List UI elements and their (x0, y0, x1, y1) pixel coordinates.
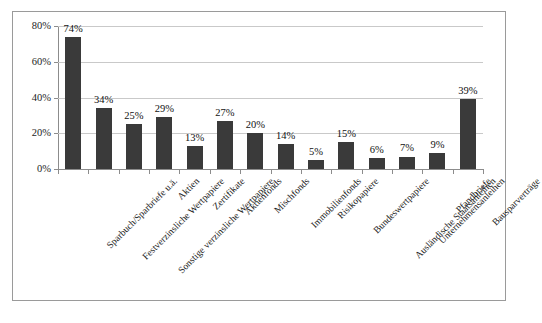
plot-area: 0%20%40%60%80% 74%34%25%29%13%27%20%14%5… (58, 26, 483, 169)
gridline (58, 98, 483, 99)
bar (460, 99, 476, 169)
y-tick-mark (54, 62, 58, 63)
bar (247, 133, 263, 169)
x-tick-mark (422, 169, 423, 174)
bar-value-label: 6% (370, 145, 384, 156)
bar (278, 144, 294, 169)
x-tick-mark (483, 169, 484, 174)
bar-value-label: 5% (309, 147, 323, 158)
bar-value-label: 13% (185, 133, 204, 144)
x-tick-mark (271, 169, 272, 174)
x-tick-mark (58, 169, 59, 174)
bar-value-label: 34% (94, 95, 113, 106)
gridline (58, 62, 483, 63)
x-tick-mark (210, 169, 211, 174)
bar (126, 124, 142, 169)
bar-value-label: 15% (337, 129, 356, 140)
bar (217, 121, 233, 169)
bar (429, 153, 445, 169)
x-tick-mark (149, 169, 150, 174)
x-tick-mark (331, 169, 332, 174)
bar (338, 142, 354, 169)
gridline (58, 26, 483, 27)
x-tick-mark (240, 169, 241, 174)
x-tick-mark (301, 169, 302, 174)
y-tick-label: 40% (32, 92, 51, 103)
gridline (58, 133, 483, 134)
bar (308, 160, 324, 169)
x-tick-mark (453, 169, 454, 174)
x-tick-mark (362, 169, 363, 174)
bar-value-label: 39% (458, 86, 477, 97)
bar-value-label: 29% (155, 104, 174, 115)
bar-value-label: 14% (276, 131, 295, 142)
y-tick-label: 20% (32, 128, 51, 139)
y-tick-label: 60% (32, 57, 51, 68)
y-tick-mark (54, 133, 58, 134)
bar (65, 37, 81, 169)
y-tick-label: 80% (32, 21, 51, 32)
bar-value-label: 27% (215, 108, 234, 119)
bar-value-label: 20% (246, 120, 265, 131)
x-tick-mark (88, 169, 89, 174)
bar (187, 146, 203, 169)
y-tick-mark (54, 98, 58, 99)
x-tick-mark (392, 169, 393, 174)
bar-value-label: 74% (64, 24, 83, 35)
bar-value-label: 9% (430, 140, 444, 151)
y-tick-mark (54, 26, 58, 27)
bar-value-label: 25% (124, 111, 143, 122)
bar-value-label: 7% (400, 143, 414, 154)
x-tick-mark (119, 169, 120, 174)
bar (399, 157, 415, 170)
y-tick-label: 0% (37, 164, 51, 175)
x-tick-mark (179, 169, 180, 174)
bar (156, 117, 172, 169)
bar (369, 158, 385, 169)
bar (96, 108, 112, 169)
